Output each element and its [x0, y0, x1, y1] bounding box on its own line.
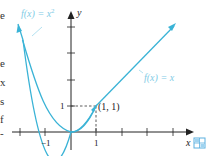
linear-curve [96, 26, 174, 106]
y-axis-arrow-icon [68, 11, 75, 19]
x-tick-label-neg1: −1 [41, 138, 51, 148]
grid-icon[interactable] [194, 138, 205, 148]
linear-arrow-icon [168, 23, 176, 31]
x-axis-label: x [185, 137, 191, 148]
linear-label: f(x) = x [144, 72, 175, 84]
y-axis [67, 11, 75, 150]
function-graph: f(x) = x2 f(x) = x (1, 1) y x −1 1 1 [0, 0, 207, 156]
x-axis-arrow-icon [186, 129, 194, 136]
point-label: (1, 1) [98, 101, 120, 113]
parabola-curve-exact [23, 40, 97, 132]
parabola-curve [23, 40, 96, 156]
parabola-label: f(x) = x2 [21, 7, 55, 20]
y-tick-label-1: 1 [60, 101, 65, 111]
y-axis-label: y [76, 7, 82, 18]
x-tick-label-1: 1 [94, 138, 99, 148]
